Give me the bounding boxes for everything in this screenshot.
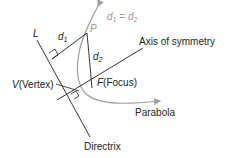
d2-segment bbox=[87, 33, 92, 88]
directrix-label: Directrix bbox=[84, 141, 121, 152]
d1-label: d1 bbox=[58, 31, 68, 43]
equation-label: d1 = d2 bbox=[107, 11, 137, 23]
vertex-pointer bbox=[56, 84, 79, 91]
focus-label: F(Focus) bbox=[97, 77, 137, 88]
parabola-label: Parabola bbox=[135, 107, 175, 118]
vertex-label: V(Vertex) bbox=[12, 79, 54, 90]
point-p-label: P bbox=[90, 23, 97, 34]
directrix-letter-label: L bbox=[33, 28, 39, 39]
d2-label: d2 bbox=[93, 51, 103, 63]
parabola-diagram: L d1 P d2 d1 = d2 Axis of symmetry V(Ver… bbox=[0, 0, 229, 158]
right-angle-marker-axis bbox=[71, 91, 79, 99]
axis-of-symmetry-label: Axis of symmetry bbox=[139, 36, 215, 47]
